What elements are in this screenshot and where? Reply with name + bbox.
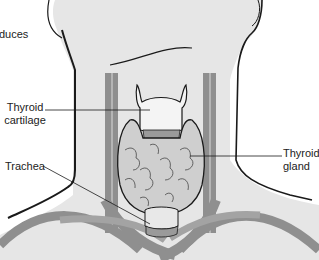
label-thyroid-cartilage-line1: Thyroid xyxy=(4,101,46,114)
label-trachea: Trachea xyxy=(5,160,45,173)
label-partial-text: duces xyxy=(0,28,28,41)
label-thyroid-gland-line2: gland xyxy=(283,160,319,173)
label-thyroid-gland-line1: Thyroid xyxy=(283,147,319,160)
label-thyroid-cartilage-line2: cartilage xyxy=(4,114,46,127)
anatomy-illustration xyxy=(0,0,319,260)
label-thyroid-cartilage: Thyroid cartilage xyxy=(4,101,46,127)
label-thyroid-gland: Thyroid gland xyxy=(283,147,319,173)
thyroid-anatomy-figure: duces Thyroid cartilage Trachea Thyroid … xyxy=(0,0,319,260)
